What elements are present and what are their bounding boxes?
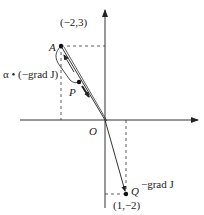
step-annotation: α • (−grad J) xyxy=(3,69,58,80)
origin-label: O xyxy=(89,126,97,137)
point-a xyxy=(59,44,63,48)
gradient-line xyxy=(61,46,105,120)
point-q-label: Q xyxy=(131,186,139,197)
point-q xyxy=(124,192,128,196)
step-loop xyxy=(56,46,79,83)
point-q-coords: (1,−2) xyxy=(113,200,140,211)
arrow-p-to-a xyxy=(64,55,74,72)
point-a-label: A xyxy=(49,42,56,53)
point-a-coords: (−2,3) xyxy=(60,17,87,28)
point-p-label: P xyxy=(69,87,76,98)
point-p xyxy=(77,80,81,84)
neg-grad-arrow xyxy=(105,120,125,191)
neg-grad-label: −grad J xyxy=(141,179,174,190)
parallel-line xyxy=(64,47,107,121)
